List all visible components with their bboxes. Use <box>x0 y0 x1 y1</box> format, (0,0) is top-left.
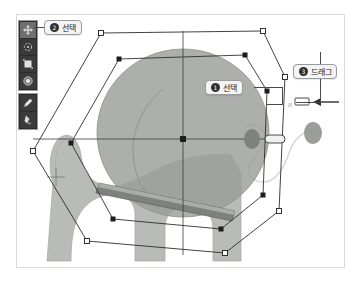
callout-connector-select-c <box>266 104 283 105</box>
callout-select-object: 1 선택 <box>205 80 243 95</box>
callout-drag: 3 드래그 <box>293 64 337 79</box>
tool-palette[interactable] <box>18 20 38 130</box>
app-root: 2 선택 1 선택 3 드래그 <box>0 0 360 283</box>
rotate-tool-icon <box>22 41 34 53</box>
tool-group-draw <box>18 93 38 130</box>
move-tool-icon <box>22 24 34 36</box>
callout-connector-drag-c <box>296 102 321 103</box>
tool-group-transform <box>18 20 38 91</box>
pen-tool-icon <box>22 97 34 109</box>
callout-connector-drag-b <box>320 79 321 103</box>
canvas-artboard[interactable] <box>17 15 345 268</box>
tool-scale[interactable] <box>20 56 36 72</box>
transform-origin-handle[interactable] <box>180 136 186 142</box>
inner-handle[interactable] <box>261 193 266 198</box>
tool-rotate[interactable] <box>20 39 36 55</box>
tool-move[interactable] <box>20 22 36 38</box>
outer-handle[interactable] <box>261 29 266 34</box>
callout-label: 선택 <box>62 22 76 33</box>
outer-handle[interactable] <box>99 31 104 36</box>
callout-label: 선택 <box>223 82 237 93</box>
callout-connector-select-b <box>282 87 283 105</box>
drawing-canvas[interactable] <box>16 14 345 268</box>
paint-tool-icon <box>22 114 34 126</box>
inner-handle[interactable] <box>265 89 270 94</box>
callout-select-tool: 2 선택 <box>44 20 82 35</box>
inner-handle[interactable] <box>111 217 116 222</box>
outer-handle[interactable] <box>223 251 228 256</box>
callout-connector-tool <box>34 27 44 28</box>
callout-badge-number: 3 <box>299 67 308 76</box>
inner-handle[interactable] <box>69 141 74 146</box>
tool-pen[interactable] <box>20 95 36 111</box>
leash-knob <box>304 122 322 144</box>
grip-knob[interactable] <box>244 129 260 149</box>
scale-tool-icon <box>22 58 34 70</box>
inner-handle[interactable] <box>219 227 224 232</box>
callout-connector-select-a <box>254 87 283 88</box>
callout-connector-drag-a <box>320 52 321 64</box>
inner-handle[interactable] <box>243 53 248 58</box>
drag-handle[interactable] <box>265 135 285 143</box>
tool-paint[interactable] <box>20 112 36 128</box>
outer-handle[interactable] <box>283 75 288 80</box>
inner-handle[interactable] <box>117 57 122 62</box>
guide-marker-dot <box>288 103 292 107</box>
callout-label: 드래그 <box>311 66 331 77</box>
callout-badge-number: 1 <box>211 83 220 92</box>
sphere-tool-icon <box>22 75 34 87</box>
callout-badge-number: 2 <box>50 23 59 32</box>
outer-handle[interactable] <box>277 209 282 214</box>
outer-handle[interactable] <box>31 149 36 154</box>
tool-sphere[interactable] <box>20 73 36 89</box>
outer-handle[interactable] <box>85 239 90 244</box>
